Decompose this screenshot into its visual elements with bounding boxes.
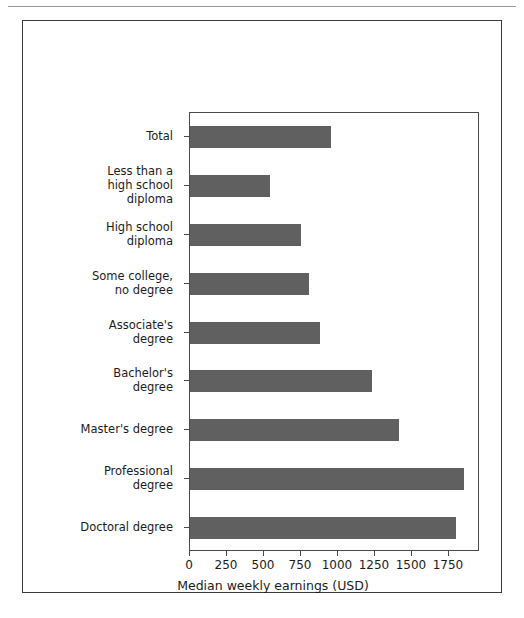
y-axis-tick-mark <box>184 527 189 528</box>
x-axis-tick-label: 0 <box>185 558 193 572</box>
x-axis-tick-label: 750 <box>289 558 312 572</box>
x-axis-tick-mark <box>300 551 301 556</box>
y-axis-tick-label: Total <box>146 129 173 143</box>
x-axis-tick-label-group: 02505007501000125015001750 <box>189 558 480 574</box>
y-axis-tick-label-group: TotalLess than a high school diplomaHigh… <box>23 112 183 551</box>
y-axis-tick-label: High school diploma <box>106 220 173 248</box>
y-axis-tick-label: Less than a high school diploma <box>107 164 173 206</box>
bar <box>190 224 301 246</box>
y-axis-tick-label: Some college, no degree <box>92 269 173 297</box>
bar <box>190 370 372 392</box>
y-axis-tick-mark <box>184 185 189 186</box>
y-axis-tick-label: Doctoral degree <box>80 520 173 534</box>
y-axis-tick-mark <box>184 136 189 137</box>
x-axis-tick-label: 500 <box>252 558 275 572</box>
y-axis-tick-label: Bachelor's degree <box>113 366 173 394</box>
y-axis-tick-label: Professional degree <box>104 464 173 492</box>
x-axis-title: Median weekly earnings (USD) <box>23 578 524 593</box>
page-top-divider <box>8 6 516 7</box>
bar-series <box>190 113 478 550</box>
bar <box>190 126 331 148</box>
y-axis-tick-mark <box>184 429 189 430</box>
x-axis-tick-mark <box>411 551 412 556</box>
x-axis-tick-label: 1750 <box>433 558 464 572</box>
bar <box>190 419 399 441</box>
y-axis-tick-mark <box>184 283 189 284</box>
x-axis-tick-label: 1000 <box>322 558 353 572</box>
x-axis-tick-mark <box>448 551 449 556</box>
x-axis-tick-mark <box>263 551 264 556</box>
y-axis-tick-mark <box>184 234 189 235</box>
bar <box>190 322 320 344</box>
x-axis-tick-mark-group <box>189 551 480 556</box>
x-axis-title-text: Median weekly earnings (USD) <box>177 578 369 593</box>
x-axis-tick-mark <box>226 551 227 556</box>
x-axis-tick-label: 250 <box>215 558 238 572</box>
y-axis-tick-label: Master's degree <box>81 422 173 436</box>
x-axis-tick-mark <box>337 551 338 556</box>
bar <box>190 517 456 539</box>
bar <box>190 175 270 197</box>
bar <box>190 468 464 490</box>
plot-area <box>189 112 479 551</box>
y-axis-tick-mark <box>184 380 189 381</box>
y-axis-tick-label: Associate's degree <box>109 318 173 346</box>
x-axis-tick-mark <box>189 551 190 556</box>
y-axis-tick-mark <box>184 478 189 479</box>
x-axis-tick-label: 1500 <box>396 558 427 572</box>
bar <box>190 273 309 295</box>
x-axis-tick-label: 1250 <box>359 558 390 572</box>
y-axis-tick-mark <box>184 332 189 333</box>
x-axis-tick-mark <box>374 551 375 556</box>
figure-frame: TotalLess than a high school diplomaHigh… <box>22 20 502 593</box>
